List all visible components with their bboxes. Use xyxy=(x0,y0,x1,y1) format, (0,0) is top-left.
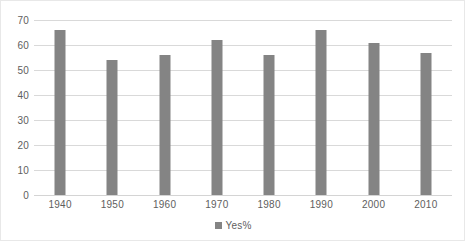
y-tick-label: 70 xyxy=(17,15,29,26)
x-tick-label: 2000 xyxy=(362,199,385,210)
bar-slot xyxy=(86,20,138,195)
legend-entry[interactable]: Yes% xyxy=(215,220,251,231)
x-tick-label: 1990 xyxy=(310,199,333,210)
bar-slot xyxy=(348,20,400,195)
x-tick-label: 1960 xyxy=(153,199,176,210)
x-tick-label: 1970 xyxy=(205,199,228,210)
chart-legend: Yes% xyxy=(1,220,465,231)
bar-slot xyxy=(243,20,295,195)
x-axis: 19401950196019701980199020002010 xyxy=(34,197,452,215)
bar-slot xyxy=(139,20,191,195)
bar[interactable] xyxy=(55,30,66,195)
bar[interactable] xyxy=(264,55,275,195)
bar[interactable] xyxy=(211,40,222,195)
y-tick-label: 10 xyxy=(17,165,29,176)
bar-slot xyxy=(295,20,347,195)
legend-label: Yes% xyxy=(225,220,251,231)
bar-chart: 010203040506070 194019501960197019801990… xyxy=(0,0,465,241)
y-axis: 010203040506070 xyxy=(1,1,34,214)
legend-swatch-icon xyxy=(215,222,222,229)
x-tick-label: 1980 xyxy=(258,199,281,210)
y-tick-label: 40 xyxy=(17,90,29,101)
bar[interactable] xyxy=(420,53,431,196)
x-tick-label: 1940 xyxy=(49,199,72,210)
y-tick-label: 20 xyxy=(17,140,29,151)
bars-layer xyxy=(34,20,452,195)
x-tick-label: 1950 xyxy=(101,199,124,210)
x-tick-label: 2010 xyxy=(414,199,437,210)
bar[interactable] xyxy=(316,30,327,195)
bar[interactable] xyxy=(368,43,379,196)
y-tick-label: 30 xyxy=(17,115,29,126)
y-tick-label: 60 xyxy=(17,40,29,51)
bar-slot xyxy=(400,20,452,195)
y-tick-label: 0 xyxy=(23,190,29,201)
y-tick-label: 50 xyxy=(17,65,29,76)
bar[interactable] xyxy=(107,60,118,195)
bar-slot xyxy=(191,20,243,195)
bar[interactable] xyxy=(159,55,170,195)
gridline xyxy=(34,195,452,196)
bar-slot xyxy=(34,20,86,195)
